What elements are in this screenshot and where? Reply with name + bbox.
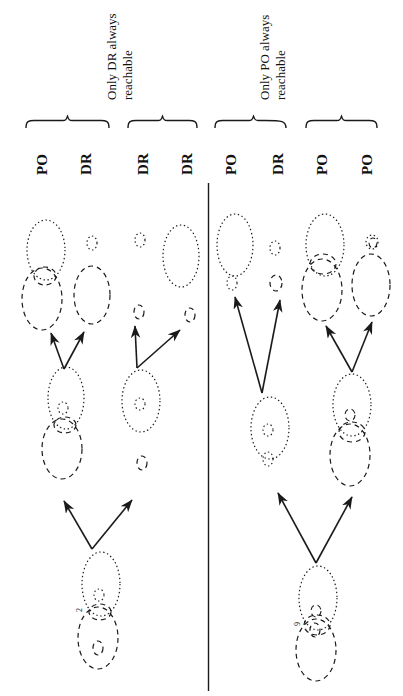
group-label-g2-dr-1: DR <box>136 153 151 175</box>
node-cluster-topleft-a <box>22 220 65 330</box>
node-cluster-midright-a <box>251 397 289 466</box>
arrow-right-upper-b2 <box>352 322 372 372</box>
arrow-left-lower-1 <box>64 501 92 549</box>
diagram-svg <box>0 0 403 696</box>
caption-left-line1: Only DR always <box>105 13 118 100</box>
group-label-g1-po: PO <box>35 154 50 175</box>
caption-right-line2: reachable <box>274 50 287 100</box>
node-cluster-bottomright-root <box>296 566 337 681</box>
node-cluster-topright-d <box>352 235 390 316</box>
arrow-group-right-upper-b <box>326 322 372 372</box>
node-cluster-topright-a <box>217 214 253 290</box>
arrow-left-upper-a1 <box>51 333 64 369</box>
node-cluster-topleft-c <box>134 233 145 319</box>
arrow-left-lower-2 <box>92 500 132 549</box>
node-cluster-midleft-b <box>122 370 160 470</box>
arrow-right-upper-a2 <box>262 300 280 393</box>
node-cluster-midleft-a <box>42 367 84 479</box>
arrow-left-upper-b1 <box>135 326 137 368</box>
node-cluster-topright-c <box>302 214 344 321</box>
arrow-left-upper-a2 <box>64 332 84 369</box>
brace-2 <box>128 116 197 128</box>
node-topleft-b <box>74 236 110 324</box>
node-annotation-right: 9 <box>294 622 302 626</box>
node-cluster-midright-b <box>330 374 371 486</box>
arrow-right-upper-a1 <box>235 297 262 393</box>
brace-1 <box>26 116 109 128</box>
arrow-group-right-upper-a <box>235 297 280 393</box>
group-label-g3-po: PO <box>224 154 239 175</box>
caption-left-line2: reachable <box>121 50 134 100</box>
arrow-right-lower-2 <box>316 497 352 563</box>
caption-right-line1: Only PO always <box>258 15 271 100</box>
figure-canvas: Only DR always reachable Only PO always … <box>0 0 403 696</box>
brace-3 <box>215 116 286 128</box>
arrow-group-left-upper-a <box>51 332 84 369</box>
arrow-left-upper-b2 <box>137 330 180 368</box>
group-label-g4-po-1: PO <box>315 154 330 175</box>
arrow-group-left-upper-b <box>135 326 180 368</box>
group-label-g1-dr: DR <box>79 153 94 175</box>
node-annotation-left: 2 <box>76 608 84 612</box>
group-label-g2-dr-2: DR <box>180 153 195 175</box>
node-cluster-topright-b <box>270 241 282 291</box>
arrow-group-left-lower <box>64 500 132 549</box>
group-label-g4-po-2: PO <box>360 154 375 175</box>
arrow-group-right-lower <box>278 493 352 563</box>
brace-4 <box>306 116 377 128</box>
arrow-right-upper-b1 <box>326 326 352 372</box>
node-cluster-bottomleft-root <box>78 552 120 669</box>
node-cluster-topleft-d <box>163 225 199 322</box>
arrow-right-lower-1 <box>278 493 316 563</box>
group-label-g3-dr: DR <box>271 153 286 175</box>
